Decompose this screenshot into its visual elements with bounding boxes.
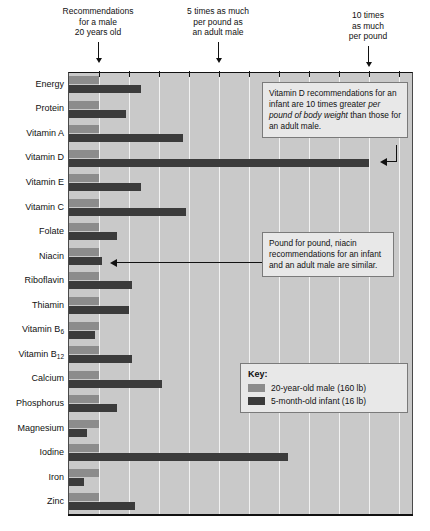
vitamin-d-leader-arrowhead [380,158,387,166]
top-callout-arrow-1x [98,42,99,58]
niacin-leader-line [116,262,262,263]
y-axis-label-zinc: Zinc [0,496,64,506]
bar-row [69,441,412,466]
top-callout-label-10x: 10 times as much per pound [313,10,423,42]
y-axis-label-vitamin-b6: Vitamin B6 [0,324,64,335]
legend-swatch-infant [248,397,265,405]
bar-infant [69,404,117,412]
bar-row-group [69,73,412,514]
bar-row [69,147,412,172]
legend-label: 20-year-old male (160 lb) [271,383,366,393]
bar-infant [69,355,132,363]
bar-row [69,466,412,491]
legend-label: 5-month-old infant (16 lb) [271,396,366,406]
bar-adult-male [69,223,99,231]
bar-adult-male [69,420,99,428]
bar-adult-male [69,272,99,280]
y-axis-label-iodine: Iodine [0,447,64,457]
legend-entry: 20-year-old male (160 lb) [248,383,400,393]
bar-adult-male [69,101,99,109]
chart-plot-area [68,72,413,514]
annotation-emphasis: per pound of body weight [269,99,380,120]
y-axis-label-vitamin-a: Vitamin A [0,128,64,138]
bar-adult-male [69,297,99,305]
bar-infant [69,134,183,142]
bar-infant [69,257,102,265]
bar-infant [69,331,95,339]
bar-infant [69,183,141,191]
legend-swatch-adult-male [248,384,265,392]
bar-adult-male [69,199,99,207]
top-callout-label-5x: 5 times as much per pound as an adult ma… [163,6,273,38]
bar-infant [69,453,288,461]
bar-infant [69,159,369,167]
bar-infant [69,232,117,240]
y-axis-label-phosphorus: Phosphorus [0,398,64,408]
bar-row [69,196,412,221]
bar-row [69,294,412,319]
bar-infant [69,281,132,289]
bar-infant [69,85,141,93]
bar-row [69,171,412,196]
top-callout-label-1x: Recommendations for a male 20 years old [43,6,153,38]
top-callout-arrow-5x [218,42,219,58]
annotation-niacin: Pound for pound, niacin recommendations … [262,232,394,277]
y-axis-label-energy: Energy [0,79,64,89]
y-axis-label-protein: Protein [0,103,64,113]
bar-row [69,319,412,344]
bar-infant [69,306,129,314]
bar-infant [69,429,87,437]
bar-adult-male [69,493,99,501]
legend-title: Key: [248,369,400,379]
bar-adult-male [69,76,99,84]
y-axis-label-vitamin-c: Vitamin C [0,202,64,212]
bar-row [69,490,412,515]
legend-entry-group: 20-year-old male (160 lb)5-month-old inf… [248,383,400,406]
bar-adult-male [69,371,99,379]
y-axis-label-calcium: Calcium [0,373,64,383]
y-axis-label-iron: Iron [0,472,64,482]
bar-adult-male [69,469,99,477]
bar-adult-male [69,346,99,354]
y-axis-label-riboflavin: Riboflavin [0,275,64,285]
y-axis-label-vitamin-d: Vitamin D [0,152,64,162]
bar-adult-male [69,395,99,403]
y-axis-label-group: EnergyProteinVitamin AVitamin DVitamin E… [0,72,64,514]
legend-entry: 5-month-old infant (16 lb) [248,396,400,406]
bar-adult-male [69,150,99,158]
y-axis-label-thiamin: Thiamin [0,300,64,310]
bar-adult-male [69,322,99,330]
annotation-vitamin-d: Vitamin D recommendations for an infant … [262,82,408,138]
y-axis-label-vitamin-e: Vitamin E [0,177,64,187]
y-axis-label-folate: Folate [0,226,64,236]
vitamin-d-leader-elbow [396,145,397,162]
bar-adult-male [69,248,99,256]
top-callout-arrow-10x [368,46,369,62]
bar-row [69,417,412,442]
y-axis-label-magnesium: Magnesium [0,423,64,433]
bar-infant [69,478,84,486]
bar-infant [69,380,162,388]
niacin-leader-arrowhead [110,259,117,267]
bar-infant [69,208,186,216]
y-axis-label-vitamin-b12: Vitamin B12 [0,349,64,360]
bar-adult-male [69,125,99,133]
vitamin-d-leader-line [386,161,397,162]
top-callout-group: Recommendations for a male 20 years old5… [0,0,430,70]
bar-infant [69,110,126,118]
chart-bottom-rule [68,514,413,516]
chart-legend: Key: 20-year-old male (160 lb)5-month-ol… [240,363,408,413]
y-axis-label-niacin: Niacin [0,251,64,261]
bar-infant [69,502,135,510]
bar-adult-male [69,174,99,182]
bar-adult-male [69,444,99,452]
